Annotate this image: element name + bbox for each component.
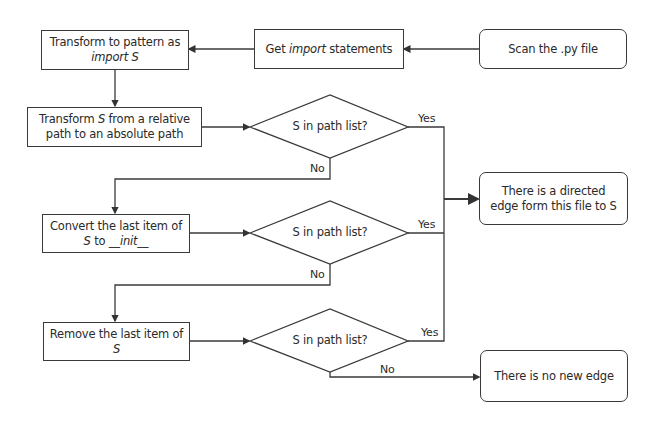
scan-file-node: Scan the .py file [479,29,627,69]
arrow-decision1-no [115,158,330,213]
directed-edge-line2: edge form this file to S [490,199,616,214]
yes-label-3: Yes [421,326,438,339]
transform-absolute-line1: Transform S from a relative [39,112,190,127]
convert-init-line2: S to __init__ [84,234,149,249]
decision2-label: S in path list? [270,225,390,239]
arrow-decision2-no [115,264,330,321]
arrow-decision3-no [330,372,479,377]
no-new-edge-label: There is no new edge [494,369,614,384]
directed-edge-result-node: There is a directed edge form this file … [479,172,628,225]
get-import-label: Get import statements [266,42,393,57]
yes-label-1: Yes [418,112,435,125]
decision1-label: S in path list? [270,119,390,133]
transform-absolute-node: Transform S from a relative path to an a… [27,107,202,147]
no-label-1: No [310,162,325,175]
convert-init-line1: Convert the last item of [50,219,182,234]
directed-edge-line1: There is a directed [502,184,606,199]
transform-absolute-line2: path to an absolute path [46,127,183,142]
yes-collector-line [408,127,444,341]
transform-pattern-node: Transform to pattern as import S [41,30,189,70]
yes-label-2: Yes [418,218,435,231]
remove-last-node: Remove the last item of S [43,322,190,361]
no-label-3: No [380,363,395,376]
no-label-2: No [310,268,325,281]
transform-pattern-line1: Transform to pattern as [50,35,180,50]
get-import-node: Get import statements [254,29,404,69]
no-new-edge-result-node: There is no new edge [480,350,628,402]
convert-init-node: Convert the last item of S to __init__ [42,214,190,253]
transform-pattern-line2: import S [91,50,138,65]
remove-last-line1: Remove the last item of [50,327,183,342]
remove-last-line2: S [113,342,120,357]
decision3-label: S in path list? [270,333,390,347]
scan-file-label: Scan the .py file [508,42,598,57]
